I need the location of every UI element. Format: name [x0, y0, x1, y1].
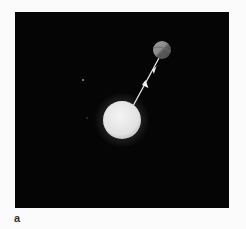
background-star-dot [86, 117, 88, 119]
figure: a [0, 0, 246, 229]
panel-label: a [14, 212, 20, 224]
star-planet-diagram [15, 12, 229, 208]
background-star-dot [82, 79, 84, 81]
diagram-panel [15, 12, 229, 208]
star [103, 101, 141, 139]
